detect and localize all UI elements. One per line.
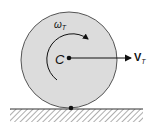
center-label: C xyxy=(55,52,65,67)
velocity-label: VT xyxy=(134,51,146,65)
contact-point xyxy=(69,106,74,111)
rolling-wheel-diagram: C ωT VT xyxy=(0,0,153,134)
ground-hatch xyxy=(10,109,143,122)
